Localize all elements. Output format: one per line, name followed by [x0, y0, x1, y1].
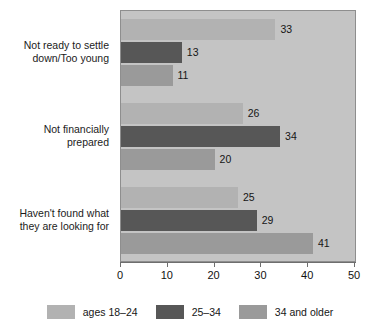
legend-swatch-icon-0	[47, 305, 75, 319]
x-tick-label-40: 40	[301, 269, 313, 281]
bar-value-group0-series1: 13	[187, 42, 199, 63]
legend: ages 18–24 25–34 34 and older	[0, 300, 380, 324]
bar-group0-series1	[121, 42, 182, 63]
bar-group1-series1	[121, 126, 280, 147]
bar-value-group1-series0: 26	[248, 103, 260, 124]
bar-value-group0-series0: 33	[280, 19, 292, 40]
category-label-1: Not financially prepared	[0, 123, 109, 148]
x-tick-50	[354, 262, 355, 267]
plot-inner: 33 13 11 26 34 20 25 29 41	[121, 11, 355, 261]
plot-area: 33 13 11 26 34 20 25 29 41	[120, 10, 356, 262]
bar-group0-series2	[121, 65, 173, 86]
x-tick-0	[120, 262, 121, 267]
category-axis-labels: Not ready to settle down/Too young Not f…	[0, 10, 115, 262]
legend-label-1: 25–34	[192, 306, 221, 318]
bar-group2-series2	[121, 233, 313, 254]
x-tick-label-30: 30	[254, 269, 266, 281]
x-tick-40	[307, 262, 308, 267]
bar-group2-series1	[121, 210, 257, 231]
x-tick-30	[260, 262, 261, 267]
bar-value-group2-series2: 41	[318, 233, 330, 254]
x-tick-label-0: 0	[117, 269, 123, 281]
bar-chart: Not ready to settle down/Too young Not f…	[0, 0, 380, 335]
bar-group1-series0	[121, 103, 243, 124]
legend-swatch-icon-1	[156, 305, 184, 319]
bar-value-group2-series1: 29	[262, 210, 274, 231]
bar-group1-series2	[121, 149, 215, 170]
legend-item-0: ages 18–24	[47, 305, 138, 319]
bar-value-group1-series1: 34	[285, 126, 297, 147]
bar-value-group2-series0: 25	[243, 187, 255, 208]
x-tick-10	[167, 262, 168, 267]
legend-swatch-icon-2	[239, 305, 267, 319]
x-tick-label-10: 10	[161, 269, 173, 281]
x-axis: 0 10 20 30 40 50	[120, 262, 356, 263]
legend-label-0: ages 18–24	[83, 306, 138, 318]
x-tick-20	[214, 262, 215, 267]
legend-item-1: 25–34	[156, 305, 221, 319]
category-label-2: Haven't found what they are looking for	[0, 207, 109, 232]
bar-group0-series0	[121, 19, 275, 40]
bar-value-group0-series2: 11	[178, 65, 189, 86]
x-tick-label-50: 50	[348, 269, 360, 281]
x-tick-label-20: 20	[207, 269, 219, 281]
legend-item-2: 34 and older	[239, 305, 333, 319]
bar-value-group1-series2: 20	[220, 149, 232, 170]
bar-group2-series0	[121, 187, 238, 208]
category-label-0: Not ready to settle down/Too young	[0, 39, 109, 64]
legend-label-2: 34 and older	[275, 306, 333, 318]
